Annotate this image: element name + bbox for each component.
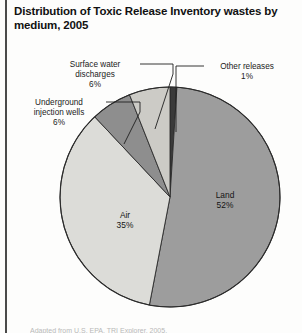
source-note: Adapted from U.S. EPA, TRI Explorer, 200… [30,327,298,333]
pie-chart-figure: Distribution of Toxic Release Inventory … [0,0,302,333]
callout-surface-water-discharges: Surface water discharges 6% [52,60,138,91]
callout-underground-injection-wells: Underground injection wells 6% [14,98,104,129]
callout-other-releases: Other releases 1% [206,62,288,82]
slice-label-land: Land 52% [196,190,254,211]
pie-chart-graphic [0,0,302,333]
slice-label-air: Air 35% [96,210,154,231]
pie-svg [0,0,302,333]
